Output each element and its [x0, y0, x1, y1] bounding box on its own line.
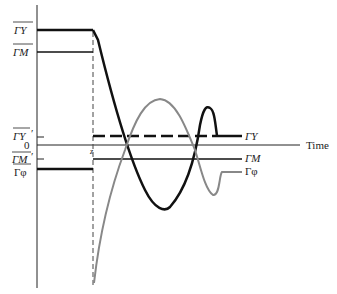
- label-gy: ΓY: [244, 130, 259, 142]
- svg-text:ΓM: ΓM: [12, 46, 29, 58]
- svg-text:Γφ: Γφ: [14, 166, 27, 178]
- gphi-curve: [94, 99, 242, 283]
- y-tick-labels: ΓY ΓM ΓY ′ 0 ΓM ′ Γφ: [11, 22, 33, 178]
- svg-text:′: ′: [31, 150, 33, 162]
- svg-text:0: 0: [24, 139, 30, 151]
- gy-curve: [93, 30, 217, 209]
- svg-text:′: ′: [31, 127, 33, 139]
- chart-canvas: ΓY ΓM ΓY ′ 0 ΓM ′ Γφ z ΓY Time ΓM Γφ: [0, 0, 337, 294]
- svg-text:ΓY: ΓY: [13, 24, 28, 36]
- label-gm: ΓM: [244, 152, 261, 164]
- label-time: Time: [306, 139, 329, 151]
- svg-text:ΓM: ΓM: [11, 153, 28, 165]
- label-gphi: Γφ: [245, 165, 258, 177]
